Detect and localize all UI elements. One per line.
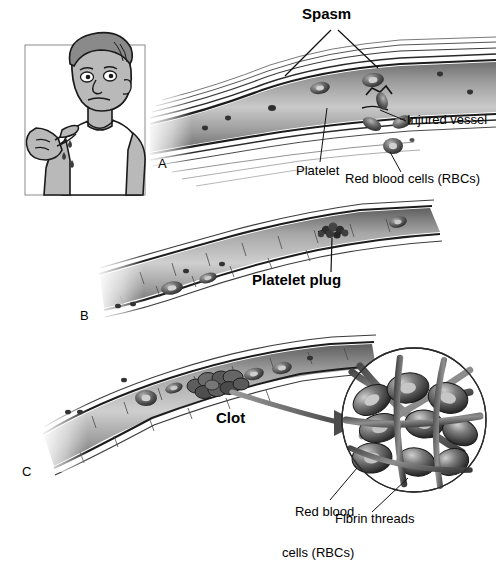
clot-magnification-contents [346,358,482,486]
label-platelet-plug: Platelet plug [252,272,341,288]
label-rbc-panel-a: Red blood cells (RBCs) [345,172,480,186]
panel-b-vessel [96,200,442,325]
label-rbc-inset-line2: cells (RBCs) [282,546,354,560]
label-injured-vessel: Injured vessel [407,113,487,127]
panel-letter-c: C [22,464,31,479]
label-spasm: Spasm [302,6,351,22]
label-clot: Clot [216,410,245,426]
panel-letter-b: B [80,308,89,323]
panel-c-vessel [40,335,486,512]
label-platelet: Platelet [296,164,339,178]
panel-letter-a: A [158,156,167,171]
person-illustration [25,33,145,195]
label-fibrin-threads: Fibrin threads [335,512,414,526]
